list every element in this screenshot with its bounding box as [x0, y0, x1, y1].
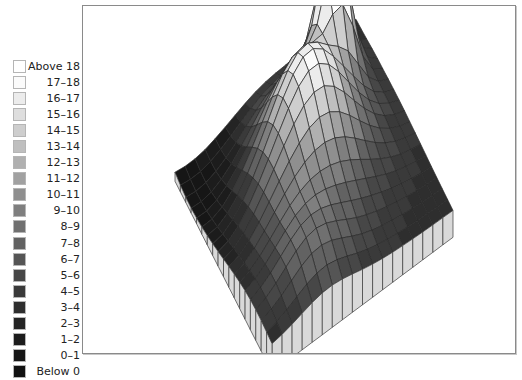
legend-swatch [13, 140, 26, 153]
legend-label: 8–9 [61, 219, 81, 234]
legend-label: 1–2 [61, 332, 81, 347]
legend-label: 0–1 [61, 348, 81, 363]
legend-item: 15–16 [12, 107, 80, 123]
legend-swatch [13, 156, 26, 169]
legend-label: 13–14 [47, 139, 81, 154]
legend-item: 1–2 [12, 332, 80, 348]
legend-swatch [13, 204, 26, 217]
legend-swatch [13, 237, 26, 250]
legend-label: 12–13 [47, 155, 81, 170]
legend-item: 17–18 [12, 75, 80, 91]
legend-item: 3–4 [12, 300, 80, 316]
legend-swatch [13, 92, 26, 105]
legend-item: Below 0 [12, 364, 80, 380]
legend-label: 10–11 [47, 187, 81, 202]
legend-item: 2–3 [12, 316, 80, 332]
legend-item: 16–17 [12, 91, 80, 107]
surface-wall-face [393, 246, 403, 283]
legend-item: 9–10 [12, 203, 80, 219]
legend-label: 4–5 [61, 284, 81, 299]
legend-label: 17–18 [47, 75, 81, 90]
legend-label: 15–16 [47, 107, 81, 122]
legend-label: 14–15 [47, 123, 81, 138]
legend-label: Below 0 [36, 364, 80, 379]
legend-swatch [13, 365, 26, 378]
legend-label: 16–17 [47, 91, 81, 106]
legend-item: 13–14 [12, 139, 80, 155]
legend-swatch [13, 188, 26, 201]
legend-item: 14–15 [12, 123, 80, 139]
surface-wall-face [322, 285, 332, 335]
legend-swatch [13, 253, 26, 266]
legend-label: Above 18 [28, 59, 80, 74]
legend-item: 4–5 [12, 284, 80, 300]
legend-item: 5–6 [12, 268, 80, 284]
legend-swatch [13, 269, 26, 282]
legend-swatch [13, 108, 26, 121]
legend-item: 12–13 [12, 155, 80, 171]
legend-swatch [13, 349, 26, 362]
legend-swatch [13, 333, 26, 346]
legend-item: 0–1 [12, 348, 80, 364]
legend-item: 11–12 [12, 171, 80, 187]
legend-item: Above 18 [12, 59, 80, 75]
legend-swatch [13, 285, 26, 298]
legend-swatch [13, 220, 26, 233]
legend-label: 3–4 [61, 300, 81, 315]
legend-label: 2–3 [61, 316, 81, 331]
legend-swatch [13, 124, 26, 137]
surface-wall-face [403, 239, 413, 275]
legend-swatch [13, 301, 26, 314]
surface-wall-face [342, 274, 352, 320]
legend-label: 9–10 [54, 203, 81, 218]
surface-wall-face [332, 279, 342, 327]
legend-swatch [13, 60, 26, 73]
legend-item: 7–8 [12, 236, 80, 252]
surface-wall-face [373, 258, 383, 297]
legend-label: 11–12 [47, 171, 81, 186]
legend-item: 6–7 [12, 252, 80, 268]
legend-label: 5–6 [61, 268, 81, 283]
legend-swatch [13, 317, 26, 330]
legend-swatch [13, 172, 26, 185]
legend-label: 7–8 [61, 236, 81, 251]
legend-label: 6–7 [61, 252, 81, 267]
legend-swatch [13, 76, 26, 89]
legend-item: 8–9 [12, 219, 80, 235]
surface-wall-face [363, 264, 373, 305]
legend-item: 10–11 [12, 187, 80, 203]
surface-wall-face [383, 252, 393, 290]
legend: Above 1817–1816–1715–1614–1513–1412–1311… [12, 59, 80, 380]
surface-wall-face [352, 269, 362, 312]
